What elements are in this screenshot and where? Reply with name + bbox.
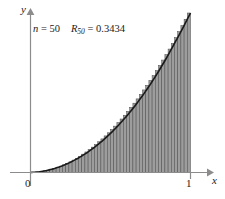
- riemann-rectangle: [187, 13, 190, 173]
- riemann-rectangle: [181, 26, 184, 173]
- riemann-rectangle: [133, 103, 136, 172]
- riemann-rectangle: [155, 71, 158, 173]
- riemann-rectangle: [139, 94, 142, 172]
- riemann-rectangles: [34, 13, 191, 173]
- riemann-rectangle: [152, 76, 155, 173]
- r-equals: =: [85, 23, 96, 34]
- riemann-rectangle: [165, 55, 168, 173]
- riemann-rectangle: [101, 139, 104, 173]
- riemann-rectangle: [168, 49, 171, 172]
- riemann-rectangle: [130, 107, 133, 172]
- riemann-rectangle: [98, 142, 101, 173]
- annotation: n = 50R50 = 0.3434: [33, 24, 125, 36]
- riemann-rectangle: [171, 43, 174, 172]
- riemann-rectangle: [107, 133, 110, 173]
- riemann-rectangle: [175, 38, 178, 173]
- r-subscript: 50: [77, 27, 85, 36]
- riemann-rectangle: [88, 150, 91, 173]
- riemann-rectangle: [82, 154, 85, 172]
- x-tick-label-one: 1: [186, 178, 192, 189]
- riemann-rectangle: [178, 32, 181, 173]
- riemann-rectangle: [184, 19, 187, 172]
- riemann-rectangle: [95, 145, 98, 173]
- riemann-sum-figure: y x 0 1 n = 50R50 = 0.3434: [0, 0, 225, 199]
- riemann-rectangle: [143, 90, 146, 173]
- n-equals: =: [38, 23, 49, 34]
- riemann-rectangle: [146, 85, 149, 172]
- n-value: 50: [49, 23, 60, 34]
- y-axis-label: y: [21, 4, 26, 15]
- riemann-rectangle: [123, 115, 126, 172]
- riemann-rectangle: [111, 130, 114, 173]
- riemann-rectangle: [159, 65, 162, 172]
- r-value: 0.3434: [96, 23, 125, 34]
- origin-label: 0: [25, 178, 31, 189]
- riemann-rectangle: [127, 111, 130, 172]
- riemann-rectangle: [85, 152, 88, 173]
- riemann-rectangle: [162, 60, 165, 172]
- x-axis-label: x: [212, 175, 217, 186]
- riemann-rectangle: [149, 81, 152, 173]
- riemann-rectangle: [91, 147, 94, 172]
- riemann-rectangle: [104, 136, 107, 173]
- riemann-rectangle: [117, 123, 120, 173]
- riemann-rectangle: [114, 126, 117, 172]
- y-axis-arrowhead: [27, 8, 35, 15]
- riemann-rectangle: [75, 158, 78, 172]
- riemann-rectangle: [120, 119, 123, 173]
- riemann-rectangle: [79, 156, 82, 172]
- riemann-rectangle: [136, 99, 139, 173]
